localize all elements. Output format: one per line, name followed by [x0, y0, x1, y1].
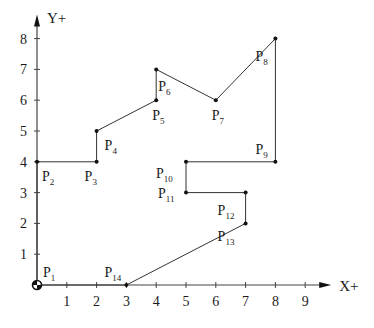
x-tick-label: 6	[212, 294, 219, 309]
point-marker	[214, 98, 218, 102]
origin-marker	[33, 281, 42, 290]
point-label: P3	[85, 169, 98, 187]
y-tick-label: 8	[20, 32, 27, 47]
point-label-sub: 5	[160, 116, 165, 126]
x-axis-title: X+	[339, 278, 358, 294]
point-label-sub: 11	[166, 194, 175, 204]
point-label-name: P	[85, 169, 93, 184]
point-label-name: P	[212, 108, 220, 123]
point-label: P9	[255, 142, 268, 160]
point-label-name: P	[218, 229, 226, 244]
point-label-sub: 3	[92, 177, 97, 187]
point-label: P10	[156, 166, 173, 184]
point-label-sub: 4	[112, 146, 117, 156]
point-label-name: P	[218, 203, 226, 218]
y-tick-label: 6	[20, 93, 27, 108]
point-label-name: P	[255, 49, 263, 64]
point-marker	[95, 160, 99, 164]
point-label: P7	[212, 108, 225, 126]
point-label: P6	[158, 79, 171, 97]
point-label: P4	[105, 138, 118, 156]
point-marker	[124, 283, 128, 287]
point-label-sub: 6	[166, 87, 171, 97]
y-axis-arrow-icon	[34, 15, 40, 27]
point-label-sub: 7	[220, 116, 225, 126]
point-label-sub: 13	[225, 237, 235, 247]
point-marker	[273, 37, 277, 41]
point-marker	[273, 160, 277, 164]
point-label-name: P	[104, 265, 112, 280]
point-label: P8	[255, 49, 268, 67]
point-label: P2	[42, 169, 54, 187]
y-tick-label: 5	[20, 124, 27, 139]
x-tick-label: 2	[93, 294, 100, 309]
point-marker	[184, 191, 188, 195]
y-tick-label: 2	[20, 216, 27, 231]
point-label-sub: 9	[263, 150, 268, 160]
y-tick-label: 3	[20, 186, 27, 201]
y-tick-label: 1	[20, 247, 27, 262]
point-label: P5	[152, 108, 165, 126]
point-label-name: P	[105, 138, 113, 153]
point-label-sub: 8	[263, 57, 268, 67]
polygon-diagram: X+ Y+ 12345678912345678 P1P2P3P4P5P6P7P8…	[0, 0, 374, 328]
y-axis-title: Y+	[47, 10, 66, 26]
x-tick-label: 8	[272, 294, 279, 309]
x-tick-label: 3	[123, 294, 130, 309]
point-label-name: P	[255, 142, 263, 157]
point-marker	[35, 160, 39, 164]
point-label-sub: 1	[51, 273, 56, 283]
x-tick-label: 7	[242, 294, 249, 309]
x-tick-label: 5	[183, 294, 190, 309]
point-label: P11	[158, 186, 174, 204]
point-label-sub: 2	[50, 177, 55, 187]
point-marker	[154, 98, 158, 102]
point-label-name: P	[43, 265, 51, 280]
point-label: P12	[218, 203, 235, 221]
point-marker	[244, 191, 248, 195]
point-label-name: P	[158, 186, 166, 201]
x-tick-label: 1	[63, 294, 70, 309]
axes: X+ Y+	[34, 10, 358, 294]
polygon-outline	[37, 39, 275, 285]
y-tick-label: 7	[20, 62, 27, 77]
y-tick-label: 4	[20, 155, 27, 170]
point-label-name: P	[156, 166, 164, 181]
point-marker	[154, 67, 158, 71]
point-label-sub: 10	[164, 174, 174, 184]
point-label-sub: 14	[112, 273, 122, 283]
point-label: P1	[43, 265, 55, 283]
x-tick-label: 9	[302, 294, 309, 309]
point-marker	[184, 160, 188, 164]
point-label-sub: 12	[225, 211, 234, 221]
x-axis-arrow-icon	[319, 282, 331, 288]
point-label: P13	[218, 229, 235, 247]
point-label: P14	[104, 265, 121, 283]
point-marker	[95, 129, 99, 133]
point-marker	[244, 221, 248, 225]
x-tick-label: 4	[153, 294, 160, 309]
point-label-name: P	[42, 169, 50, 184]
